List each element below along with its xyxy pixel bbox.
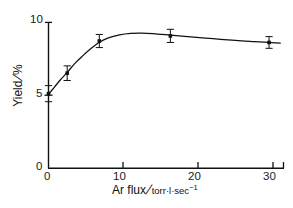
y-axis-label: Yield/% (10, 56, 25, 116)
chart-axes (45, 22, 285, 169)
data-markers (47, 34, 271, 95)
figure: 10 5 0 0 10 20 30 Yield/% Ar flux/torr·l… (0, 0, 293, 208)
x-tick-label-30: 30 (263, 170, 276, 182)
x-axis-label-text: Ar flux (112, 183, 146, 197)
y-tick-label-5: 5 (36, 87, 43, 99)
y-tick-label-10: 10 (30, 13, 43, 25)
data-point (65, 71, 69, 75)
y-tick-label-0: 0 (36, 160, 43, 172)
x-axis-label-unit: torr·l·sec−1 (152, 185, 198, 196)
data-point (47, 92, 51, 96)
x-axis-unit-main: torr·l·sec (152, 185, 189, 196)
y-axis-label-text: Yield (11, 81, 25, 107)
data-point (267, 41, 271, 45)
x-tick-label-10: 10 (113, 170, 126, 182)
x-axis-unit-exponent: −1 (189, 183, 198, 192)
fit-curve (49, 33, 281, 94)
x-tick-label-20: 20 (188, 170, 201, 182)
x-axis-label: Ar flux/torr·l·sec−1 (112, 182, 198, 197)
data-point (98, 39, 102, 43)
data-point (169, 34, 173, 38)
x-tick-label-0: 0 (44, 170, 51, 182)
